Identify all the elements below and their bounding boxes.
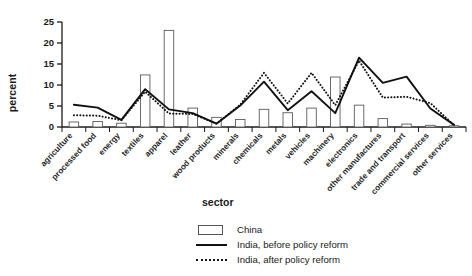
bar-china (402, 124, 412, 127)
x-tick-labels: agricultureprocessed foodenergytextilesa… (39, 131, 455, 197)
y-tick-label: 20 (43, 37, 54, 48)
solid-line-icon (196, 239, 230, 251)
y-tick-label: 25 (43, 16, 54, 27)
y-tick-label: 5 (49, 100, 55, 111)
bar-china (235, 119, 245, 127)
bar-china (93, 122, 103, 127)
x-tick-label: processed food (50, 131, 98, 182)
bar-china (283, 113, 293, 127)
y-tick-label: 15 (43, 58, 54, 69)
chart-legend: China India, before policy reform India,… (196, 222, 446, 267)
legend-label-india-after: India, after policy reform (237, 254, 340, 266)
y-tick-label: 0 (49, 121, 54, 132)
bar-china (307, 108, 317, 127)
legend-item-china: China (196, 222, 446, 237)
bar-swatch-icon (196, 224, 230, 236)
legend-label-india-before: India, before policy reform (237, 239, 348, 251)
x-tick-label: textiles (120, 131, 146, 158)
x-tick-label: energy (97, 131, 122, 157)
x-axis (62, 127, 466, 132)
y-axis: 0510152025 (43, 16, 62, 132)
bar-china (449, 126, 459, 127)
bar-china (354, 105, 364, 127)
bar-china (426, 125, 436, 127)
x-tick-label: apparel (143, 131, 169, 158)
legend-item-india-before: India, before policy reform (196, 237, 446, 252)
dotted-line-icon (196, 254, 230, 266)
legend-label-china: China (237, 224, 262, 236)
legend-item-india-after: India, after policy reform (196, 252, 446, 267)
plot-area: 0510152025 agricultureprocessed foodener… (0, 0, 472, 200)
bar-china (331, 77, 341, 127)
bar-china (188, 108, 198, 127)
bar-china (378, 119, 388, 127)
y-tick-label: 10 (43, 79, 54, 90)
bar-china (117, 123, 127, 127)
chart-figure: percent sector 0510152025 agriculturepro… (0, 0, 472, 276)
bar-china (164, 30, 174, 127)
bar-china (69, 122, 79, 127)
bar-china (140, 75, 150, 127)
bar-china (259, 109, 269, 127)
